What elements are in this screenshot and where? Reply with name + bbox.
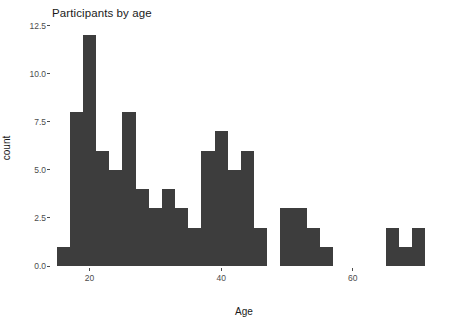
histogram-bar <box>83 35 96 266</box>
x-axis-title: Age <box>235 306 253 317</box>
x-tick-label: 40 <box>216 273 225 283</box>
histogram-bar <box>109 170 122 266</box>
y-tick-label: 5.0 <box>34 165 46 175</box>
y-tick-label: 7.5 <box>34 117 46 127</box>
histogram-bar <box>386 228 399 266</box>
histogram-bar <box>70 112 83 266</box>
histogram-bar <box>188 228 201 266</box>
plot-panel <box>50 20 445 266</box>
histogram-chart: Participants by age count 0.02.55.07.510… <box>0 0 456 328</box>
histogram-bar <box>122 112 135 266</box>
y-tick-label: 10.0 <box>29 69 46 79</box>
y-axis-title: count <box>1 136 12 160</box>
histogram-bar <box>412 228 425 266</box>
histogram-bar <box>96 151 109 266</box>
histogram-bar <box>162 189 175 266</box>
histogram-bar <box>399 247 412 266</box>
y-tick-label: 12.5 <box>29 21 46 31</box>
bars-layer <box>50 20 445 266</box>
histogram-bar <box>57 247 70 266</box>
x-tick-mark <box>352 268 353 271</box>
histogram-bar <box>149 208 162 266</box>
histogram-bar <box>241 151 254 266</box>
histogram-bar <box>294 208 307 266</box>
y-tick-label: 2.5 <box>34 213 46 223</box>
chart-title: Participants by age <box>52 7 152 19</box>
histogram-bar <box>307 228 320 266</box>
histogram-bar <box>136 189 149 266</box>
histogram-bar <box>254 228 267 266</box>
x-tick-mark <box>221 268 222 271</box>
histogram-bar <box>320 247 333 266</box>
histogram-bar <box>215 131 228 266</box>
x-tick-label: 60 <box>348 273 357 283</box>
x-tick-mark <box>89 268 90 271</box>
x-tick-label: 20 <box>85 273 94 283</box>
y-tick-label: 0.0 <box>34 261 46 271</box>
histogram-bar <box>280 208 293 266</box>
histogram-bar <box>175 208 188 266</box>
histogram-bar <box>228 170 241 266</box>
histogram-bar <box>201 151 214 266</box>
